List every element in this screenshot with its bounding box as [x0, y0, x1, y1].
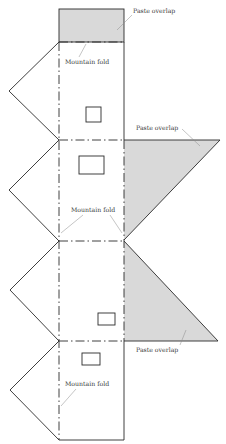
leader-mountain-fold-middle-right — [110, 215, 122, 233]
left-gable-3 — [10, 241, 59, 341]
label-mountain-fold-top: Mountain fold — [65, 58, 109, 65]
label-paste-overlap-top: Paste overlap — [133, 7, 175, 15]
top-paste-overlap-flap — [59, 9, 124, 42]
label-mountain-fold-bottom: Mountain fold — [65, 380, 109, 387]
leader-mountain-fold-bottom — [61, 389, 76, 406]
label-mountain-fold-middle: Mountain fold — [71, 206, 115, 213]
window-2 — [79, 156, 104, 174]
label-paste-overlap-lower-right: Paste overlap — [136, 346, 178, 354]
leader-mountain-fold-top — [79, 44, 86, 57]
window-4 — [82, 353, 100, 365]
house-net-diagram: Paste overlap Mountain fold Paste overla… — [0, 0, 226, 444]
left-gable-4 — [10, 341, 59, 440]
leader-mountain-fold-middle-left — [61, 215, 83, 233]
left-gable-1 — [9, 42, 59, 140]
window-3 — [98, 313, 115, 325]
left-gable-2 — [9, 140, 59, 241]
window-1 — [86, 107, 101, 122]
label-paste-overlap-upper-right: Paste overlap — [136, 124, 178, 132]
